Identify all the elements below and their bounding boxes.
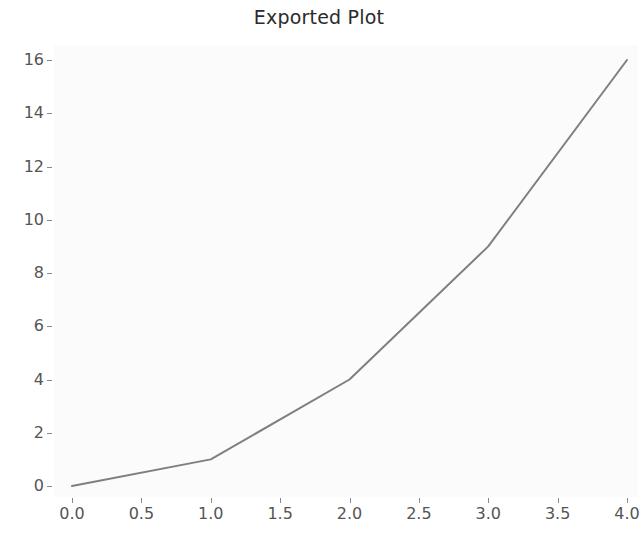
x-axis-tick-label: 0.5 xyxy=(111,505,171,523)
x-axis-tick-mark xyxy=(141,498,142,503)
plot-area xyxy=(54,45,638,497)
y-axis-tick-labels: 0246810121416 xyxy=(0,0,44,533)
y-axis-tick-mark xyxy=(47,486,52,487)
x-axis-tick-mark xyxy=(350,498,351,503)
y-axis-tick-label: 2 xyxy=(6,425,44,441)
x-axis-tick-mark xyxy=(211,498,212,503)
y-axis-tick-label: 4 xyxy=(6,372,44,388)
x-axis-tick-labels: 0.00.51.01.52.02.53.03.54.0 xyxy=(0,505,638,529)
x-axis-tick-label: 4.0 xyxy=(597,505,644,523)
y-axis-tick-label: 0 xyxy=(6,478,44,494)
y-axis-tick-label: 10 xyxy=(6,212,44,228)
x-axis-tick-mark xyxy=(280,498,281,503)
x-axis-tick-label: 3.0 xyxy=(458,505,518,523)
y-axis-tick-mark xyxy=(47,326,52,327)
y-axis-tick-label: 14 xyxy=(6,105,44,121)
x-axis-tick-mark xyxy=(72,498,73,503)
y-axis-tick-mark xyxy=(47,60,52,61)
x-axis-tick-label: 2.5 xyxy=(389,505,449,523)
y-axis-tick-mark xyxy=(47,220,52,221)
y-axis-tick-mark xyxy=(47,433,52,434)
y-axis-tick-mark xyxy=(47,273,52,274)
x-axis-tick-label: 0.0 xyxy=(42,505,102,523)
x-axis-tick-label: 2.0 xyxy=(320,505,380,523)
y-axis-tick-mark xyxy=(47,167,52,168)
y-axis-tick-mark xyxy=(47,380,52,381)
x-axis-tick-mark xyxy=(419,498,420,503)
x-axis-tick-label: 1.0 xyxy=(181,505,241,523)
y-axis-tick-label: 12 xyxy=(6,159,44,175)
y-axis-tick-label: 6 xyxy=(6,318,44,334)
x-axis-tick-label: 3.5 xyxy=(528,505,588,523)
x-axis-tick-mark xyxy=(627,498,628,503)
x-axis-tick-mark xyxy=(488,498,489,503)
y-axis-tick-label: 16 xyxy=(6,52,44,68)
y-axis-tick-label: 8 xyxy=(6,265,44,281)
x-axis-tick-label: 1.5 xyxy=(250,505,310,523)
x-axis-tick-mark xyxy=(558,498,559,503)
y-axis-tick-mark xyxy=(47,113,52,114)
chart-title: Exported Plot xyxy=(0,4,638,30)
